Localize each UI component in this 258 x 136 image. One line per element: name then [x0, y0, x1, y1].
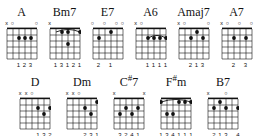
chord-name: Amaj7	[177, 6, 210, 20]
fret-dot	[232, 36, 236, 40]
fret-dot	[48, 106, 51, 110]
fret-dot	[160, 100, 163, 104]
no-marker	[94, 90, 100, 97]
chord-name: A	[17, 6, 26, 20]
finger-number	[249, 61, 255, 70]
fret-dot	[201, 36, 205, 40]
grid-wrap	[19, 97, 51, 130]
barre-arc	[148, 35, 166, 38]
fret-dot	[236, 106, 239, 110]
fret-dot	[109, 30, 113, 34]
chord-diagram[interactable]: Bm7x13121	[43, 6, 86, 70]
fret-dot	[189, 100, 192, 104]
mute-marker-icon: x	[141, 90, 147, 97]
open-mute-markers: xx○	[64, 90, 100, 97]
chord-name: A7	[229, 6, 244, 20]
fret-dot	[23, 36, 27, 40]
fret-dot	[189, 36, 193, 40]
fret-dot	[177, 100, 181, 104]
open-mute-markers: xx	[111, 90, 147, 97]
open-mute-markers: xx○	[17, 90, 53, 97]
chord-diagram[interactable]: A7x○○○23	[215, 6, 258, 70]
chord-name: E7	[101, 6, 114, 20]
finger-number: 2	[47, 131, 53, 136]
finger-number: 1	[163, 61, 169, 70]
open-mute-markers: x○○	[176, 20, 212, 27]
fret-dot	[136, 106, 140, 110]
chord-grid	[6, 27, 38, 60]
finger-numbers: 231	[64, 131, 100, 136]
fret-dot	[130, 112, 134, 116]
fret-dot	[97, 36, 101, 40]
chord-grid	[92, 27, 124, 60]
chord-grid	[178, 27, 210, 60]
finger-numbers: 2134	[205, 131, 241, 136]
fret-dot	[171, 112, 175, 116]
fret-dot	[42, 112, 46, 116]
no-marker	[47, 90, 53, 97]
finger-number	[34, 61, 40, 70]
chord-diagram[interactable]: F#m134111	[153, 76, 200, 136]
open-mute-markers: x○○	[4, 20, 40, 27]
fret-dot	[89, 112, 93, 116]
no-marker	[163, 20, 169, 27]
grid-wrap	[207, 97, 239, 130]
open-mute-markers: ○○○○	[90, 20, 126, 27]
fret-dot	[17, 36, 21, 40]
finger-numbers: 13121	[47, 61, 83, 70]
finger-number: 1	[94, 131, 100, 136]
grid-wrap	[160, 97, 192, 130]
chord-name: C#7	[120, 76, 139, 90]
no-marker	[77, 20, 83, 27]
finger-number	[206, 61, 212, 70]
grid-wrap	[113, 97, 145, 130]
fret-dot	[152, 36, 156, 40]
chord-diagram[interactable]: A6x○1111	[129, 6, 172, 70]
chord-grid	[221, 27, 253, 60]
chord-diagram[interactable]: Dxx○132	[12, 76, 59, 136]
finger-numbers: 134111	[158, 131, 194, 136]
grid-wrap	[49, 27, 81, 60]
chord-name: D	[31, 76, 40, 90]
chord-diagram[interactable]: C#7xx3241	[106, 76, 153, 136]
finger-numbers: 123	[4, 61, 40, 70]
fret-dot	[78, 30, 81, 34]
finger-numbers: 1111	[133, 61, 169, 70]
chord-diagram[interactable]: B7x○2134	[200, 76, 247, 136]
fret-dot	[36, 106, 40, 110]
finger-numbers: 132	[17, 131, 53, 136]
fret-dot	[244, 36, 248, 40]
fret-dot	[183, 100, 187, 104]
open-string-icon: ○	[249, 20, 255, 27]
chord-diagram[interactable]: Dmxx○231	[59, 76, 106, 136]
finger-number: 1	[188, 131, 194, 136]
chord-grid	[49, 27, 81, 60]
chord-row-2: Dxx○132Dmxx○231C#7xx3241F#m134111B7x○213…	[0, 70, 258, 136]
finger-numbers: 213	[176, 61, 212, 70]
open-mute-markers: x○	[205, 90, 241, 97]
open-mute-markers	[158, 90, 194, 97]
grid-wrap	[66, 97, 98, 130]
chord-diagram[interactable]: Amaj7x○○213	[172, 6, 215, 70]
finger-numbers: 3241	[111, 131, 147, 136]
chord-diagram[interactable]: Ax○○123	[0, 6, 43, 70]
open-mute-markers: x○	[133, 20, 169, 27]
chord-row-1: Ax○○123Bm7x13121E7○○○○21A6x○1111Amaj7x○○…	[0, 0, 258, 70]
grid-wrap	[6, 27, 38, 60]
open-mute-markers: x	[47, 20, 83, 27]
open-mute-markers: x○○○	[219, 20, 255, 27]
fret-dot	[95, 100, 98, 104]
fret-dot	[165, 112, 169, 116]
fret-dot	[164, 36, 167, 40]
chord-name: F#m	[166, 76, 187, 90]
finger-numbers: 23	[219, 61, 255, 70]
chord-name: Dm	[73, 76, 91, 90]
finger-number	[120, 61, 126, 70]
chord-grid	[66, 97, 98, 130]
chord-chart-sheet: Ax○○123Bm7x13121E7○○○○21A6x○1111Amaj7x○○…	[0, 0, 258, 136]
fret-dot	[118, 112, 122, 116]
fret-dot	[66, 42, 70, 46]
chord-diagram[interactable]: E7○○○○21	[86, 6, 129, 70]
fret-dot	[66, 30, 70, 34]
fret-dot	[60, 30, 64, 34]
